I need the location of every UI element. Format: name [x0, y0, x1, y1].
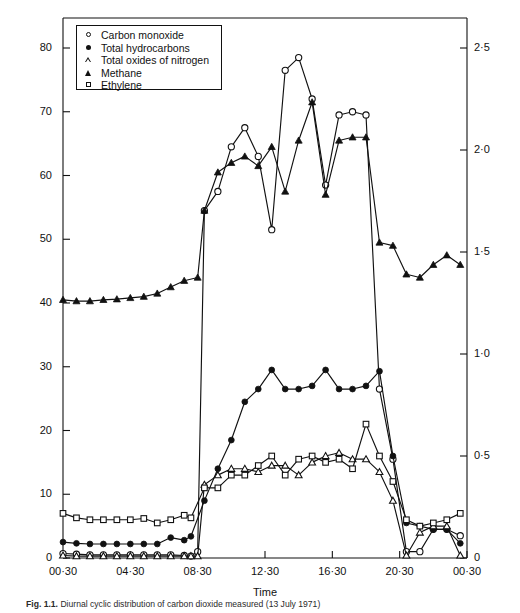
x-axis-tick-label: 16·30: [304, 565, 360, 577]
y-axis-left-tick-label: 50: [0, 232, 52, 244]
y-axis-left-tick-label: 20: [0, 424, 52, 436]
figure-container: Carbon monoxide and total hydrocarbons (…: [0, 0, 520, 613]
legend-item: Total hydrocarbons: [77, 42, 221, 54]
legend-item: Methane: [77, 67, 221, 79]
open-triangle-icon: [83, 54, 99, 66]
y-axis-right-tick-label: 1·0: [474, 347, 514, 359]
legend-label: Methane: [99, 67, 142, 79]
figure-label: Fig. 1.1.: [26, 599, 58, 609]
x-axis-tick-label: 00·30: [35, 565, 91, 577]
y-axis-right-tick-label: 2·5: [474, 41, 514, 53]
legend-item: Ethylene: [77, 79, 221, 91]
open-square-icon: [83, 79, 99, 91]
legend-item: Total oxides of nitrogen: [77, 54, 221, 66]
open-circle-icon: [83, 29, 99, 41]
y-axis-left-tick-label: 10: [0, 487, 52, 499]
chart-legend: Carbon monoxide Total hydrocarbons Total…: [76, 25, 222, 90]
legend-label: Ethylene: [99, 79, 142, 91]
y-axis-left-tick-label: 70: [0, 105, 52, 117]
y-axis-left-tick-label: 30: [0, 360, 52, 372]
figure-caption-text: Diurnal cyclic distribution of carbon di…: [60, 599, 320, 609]
filled-triangle-icon: [83, 67, 99, 79]
x-axis-tick-label: 00·30: [439, 565, 495, 577]
axis-tick-labels: 0102030405060708000·51·01·52·02·500·3004…: [0, 0, 520, 613]
y-axis-right-tick-label: 0: [474, 551, 514, 563]
legend-item: Carbon monoxide: [77, 29, 221, 41]
y-axis-right-tick-label: 1·5: [474, 245, 514, 257]
legend-label: Total hydrocarbons: [99, 42, 190, 54]
x-axis-tick-label: 20·30: [372, 565, 428, 577]
figure-caption: Fig. 1.1. Diurnal cyclic distribution of…: [26, 599, 496, 610]
x-axis-title: Time: [215, 586, 315, 598]
y-axis-left-tick-label: 60: [0, 169, 52, 181]
y-axis-right-tick-label: 2·0: [474, 143, 514, 155]
y-axis-left-tick-label: 40: [0, 296, 52, 308]
x-axis-tick-label: 08·30: [170, 565, 226, 577]
legend-label: Carbon monoxide: [99, 29, 184, 41]
y-axis-left-tick-label: 80: [0, 41, 52, 53]
legend-label: Total oxides of nitrogen: [99, 54, 209, 66]
x-axis-tick-label: 04·30: [102, 565, 158, 577]
filled-circle-icon: [83, 42, 99, 54]
y-axis-left-tick-label: 0: [0, 551, 52, 563]
y-axis-right-tick-label: 0·5: [474, 449, 514, 461]
x-axis-tick-label: 12·30: [237, 565, 293, 577]
